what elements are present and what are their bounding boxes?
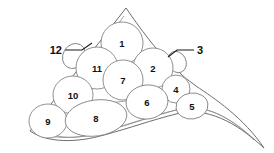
lobe-label-5: 5 — [189, 101, 195, 112]
diagram-canvas: 1 2 4 5 6 7 8 9 10 11 12 3 — [0, 0, 274, 153]
lobe-label-2: 2 — [150, 63, 155, 74]
lobe-label-10: 10 — [68, 90, 79, 101]
callout-label-3: 3 — [197, 44, 203, 56]
lobe-label-1: 1 — [119, 38, 125, 49]
cross-section-diagram: 1 2 4 5 6 7 8 9 10 11 12 3 — [0, 0, 274, 153]
callout-label-12: 12 — [50, 44, 62, 56]
lobe-label-8: 8 — [93, 113, 98, 124]
lobe-label-4: 4 — [173, 84, 179, 95]
lobe-label-7: 7 — [120, 75, 125, 86]
lobe-label-11: 11 — [92, 63, 103, 74]
lobe-label-9: 9 — [45, 116, 50, 127]
lobe-label-6: 6 — [144, 97, 149, 108]
